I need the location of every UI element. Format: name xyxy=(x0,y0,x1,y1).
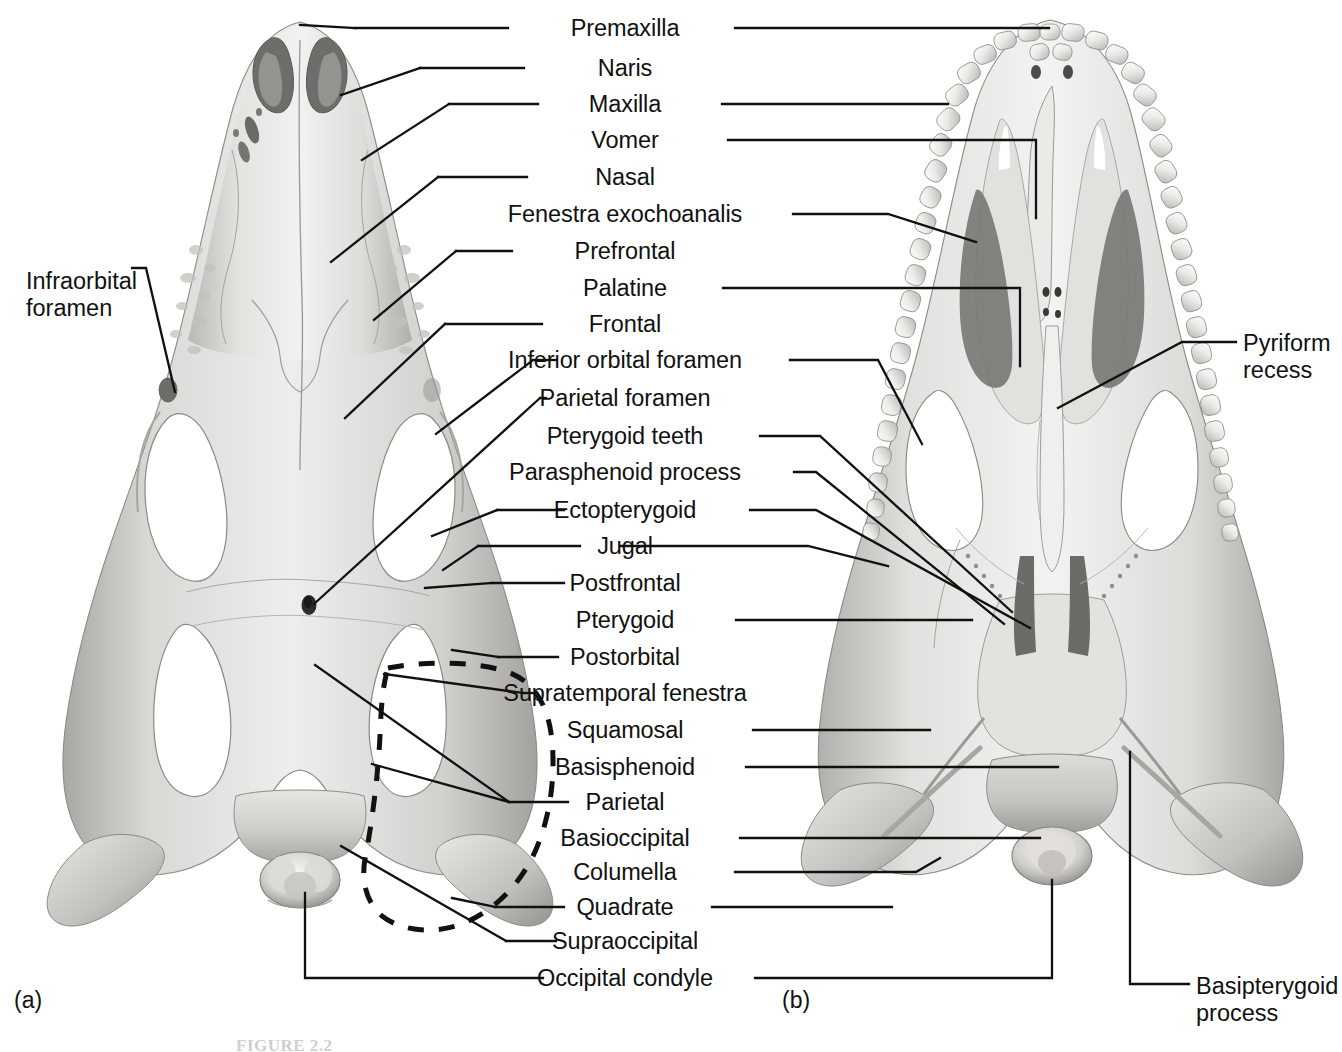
label-infraorbital-foramen-line-1: Infraorbital xyxy=(26,268,137,295)
label-pyriform-recess: Pyriformrecess xyxy=(1243,330,1330,385)
panel-b-letter: (b) xyxy=(782,987,810,1014)
label-infraorbital-foramen-line-2: foramen xyxy=(26,295,137,322)
label-basipterygoid-process: Basipterygoidprocess xyxy=(1196,973,1338,1028)
label-fenestra-exochoanalis: Fenestra exochoanalis xyxy=(508,202,742,227)
label-vomer: Vomer xyxy=(591,128,658,153)
label-basipterygoid-process-line-1: Basipterygoid xyxy=(1196,973,1338,1000)
label-postfrontal: Postfrontal xyxy=(569,571,680,596)
label-quadrate: Quadrate xyxy=(576,895,673,920)
label-premaxilla: Premaxilla xyxy=(571,16,680,41)
label-ectopterygoid: Ectopterygoid xyxy=(554,498,696,523)
skull-ventral-view xyxy=(801,20,1303,886)
label-frontal: Frontal xyxy=(589,312,661,337)
label-postorbital: Postorbital xyxy=(570,645,680,670)
label-prefrontal: Prefrontal xyxy=(575,239,676,264)
label-jugal: Jugal xyxy=(597,534,653,559)
label-parietal-foramen: Parietal foramen xyxy=(540,386,711,411)
figure-caption: FIGURE 2.2 xyxy=(236,1036,333,1052)
label-pyriform-recess-line-1: Pyriform xyxy=(1243,330,1330,357)
label-basioccipital: Basioccipital xyxy=(560,826,689,851)
label-parasphenoid-process: Parasphenoid process xyxy=(509,460,741,485)
label-pterygoid: Pterygoid xyxy=(576,608,674,633)
label-maxilla: Maxilla xyxy=(589,92,661,117)
label-columella: Columella xyxy=(573,860,677,885)
label-pyriform-recess-line-2: recess xyxy=(1243,357,1330,384)
label-basipterygoid-process-line-2: process xyxy=(1196,1000,1338,1027)
label-infraorbital-foramen: Infraorbitalforamen xyxy=(26,268,137,323)
label-naris: Naris xyxy=(598,56,652,81)
label-palatine: Palatine xyxy=(583,276,667,301)
label-pterygoid-teeth: Pterygoid teeth xyxy=(547,424,704,449)
label-inferior-orbital-foramen: Inferior orbital foramen xyxy=(508,348,742,373)
anatomical-figure: PremaxillaNarisMaxillaVomerNasalFenestra… xyxy=(0,0,1342,1052)
label-occipital-condyle: Occipital condyle xyxy=(537,966,713,991)
label-basisphenoid: Basisphenoid xyxy=(555,755,695,780)
label-supratemporal-fenestra: Supratemporal fenestra xyxy=(503,681,746,706)
label-supraoccipital: Supraoccipital xyxy=(552,929,698,954)
figure-caption-number: FIGURE 2.2 xyxy=(236,1036,333,1052)
label-parietal: Parietal xyxy=(586,790,665,815)
label-squamosal: Squamosal xyxy=(567,718,684,743)
panel-a-letter: (a) xyxy=(14,987,42,1014)
label-nasal: Nasal xyxy=(595,165,655,190)
